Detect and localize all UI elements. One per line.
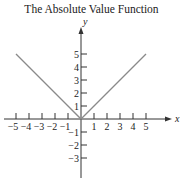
- y-tick-label: 1: [74, 101, 79, 112]
- x-tick-label: −4: [21, 121, 32, 132]
- y-tick-label: 2: [74, 88, 79, 99]
- x-tick-label: −2: [47, 121, 58, 132]
- y-tick-label: −3: [68, 153, 79, 164]
- x-tick-label: 3: [118, 121, 123, 132]
- y-tick-label: 3: [74, 75, 79, 86]
- y-tick-label: −1: [68, 127, 79, 138]
- x-axis-arrow-icon: [165, 117, 172, 122]
- x-tick-label: 2: [105, 121, 110, 132]
- x-axis-label: x: [174, 113, 180, 124]
- y-tick-label: 5: [74, 49, 79, 60]
- y-axis-label: y: [82, 16, 88, 27]
- x-tick-label: 1: [92, 121, 97, 132]
- x-tick-label: 5: [144, 121, 149, 132]
- x-tick-label: −3: [34, 121, 45, 132]
- y-tick-label: 4: [74, 62, 79, 73]
- plot-area: xy−5−4−3−2−11234554321−1−2−3: [0, 0, 183, 185]
- y-axis-arrow-icon: [79, 27, 84, 34]
- y-tick-label: −2: [68, 140, 79, 151]
- x-tick-label: −5: [8, 121, 19, 132]
- x-tick-label: 4: [131, 121, 136, 132]
